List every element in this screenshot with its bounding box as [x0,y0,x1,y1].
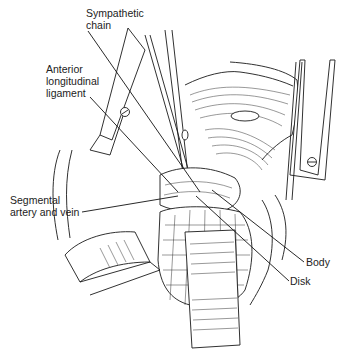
label-anterior-longitudinal-ligament: Anterior longitudinal ligament [46,63,99,99]
label-body: Body [306,256,330,268]
vessel-oval [231,111,259,121]
leader-anterior-longitudinal-ligament [90,97,178,192]
vertebral-body [160,168,240,213]
retractor-left-upper [100,28,145,140]
retractor-malleable [185,230,240,348]
leader-sympathetic-chain [88,31,200,192]
forceps-right [165,30,188,175]
label-segmental-artery-and-vein: Segmental artery and vein [10,194,79,218]
label-sympathetic-chain: Sympathetic chain [86,7,144,31]
label-disk: Disk [290,275,310,287]
surgical-illustration [0,0,345,350]
illustration-canvas: Sympathetic chain Anterior longitudinal … [0,0,345,350]
